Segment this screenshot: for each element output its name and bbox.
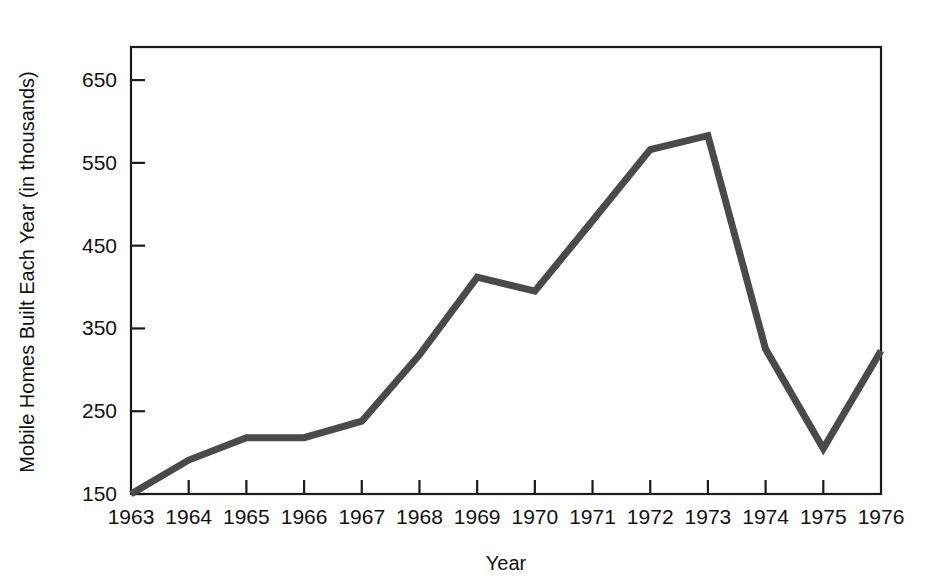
y-tick-label-450: 450 <box>82 234 117 257</box>
data-series-line <box>131 136 881 494</box>
y-tick-label-650: 650 <box>82 68 117 91</box>
y-tick-label-150: 150 <box>82 482 117 505</box>
x-tick-label-1965: 1965 <box>223 505 270 528</box>
x-axis-title: Year <box>486 552 527 574</box>
x-tick-label-1966: 1966 <box>281 505 328 528</box>
x-tick-label-1968: 1968 <box>396 505 443 528</box>
x-tick-label-1971: 1971 <box>569 505 616 528</box>
x-axis-ticks <box>189 480 824 494</box>
x-tick-label-1973: 1973 <box>685 505 732 528</box>
x-tick-label-1972: 1972 <box>627 505 674 528</box>
x-tick-label-1974: 1974 <box>742 505 789 528</box>
line-chart: 150250350450550650 196319641965196619671… <box>0 0 942 584</box>
y-tick-label-350: 350 <box>82 316 117 339</box>
x-tick-label-1976: 1976 <box>858 505 905 528</box>
x-tick-label-1969: 1969 <box>454 505 501 528</box>
x-tick-label-1975: 1975 <box>800 505 847 528</box>
chart-svg: 150250350450550650 196319641965196619671… <box>0 0 942 584</box>
y-tick-label-250: 250 <box>82 399 117 422</box>
x-axis-tick-labels: 1963196419651966196719681969197019711972… <box>108 505 905 528</box>
y-axis-ticks <box>131 80 145 494</box>
y-axis-title: Mobile Homes Built Each Year (in thousan… <box>16 71 38 472</box>
x-tick-label-1970: 1970 <box>511 505 558 528</box>
x-tick-label-1964: 1964 <box>165 505 212 528</box>
y-axis-tick-labels: 150250350450550650 <box>82 68 117 505</box>
plot-frame <box>131 47 881 494</box>
x-tick-label-1963: 1963 <box>108 505 155 528</box>
x-tick-label-1967: 1967 <box>338 505 385 528</box>
y-tick-label-550: 550 <box>82 151 117 174</box>
